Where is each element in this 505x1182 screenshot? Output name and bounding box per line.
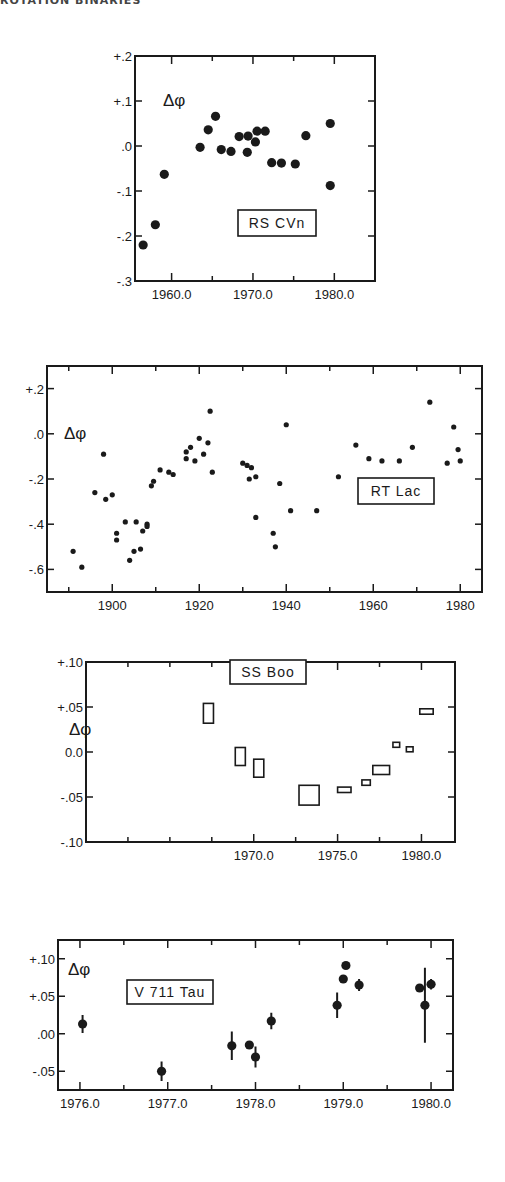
data-point — [253, 474, 258, 479]
y-tick-label: -.05 — [61, 790, 83, 805]
data-point — [139, 240, 148, 249]
data-point — [427, 400, 432, 405]
data-point — [247, 476, 252, 481]
y-tick-label: +.10 — [29, 952, 55, 967]
data-box — [254, 759, 264, 777]
legend-label: V 711 Tau — [135, 984, 206, 1000]
y-tick-label: +.2 — [114, 49, 132, 64]
x-tick-label: 1975.0 — [318, 848, 358, 863]
data-point — [301, 131, 310, 140]
data-point — [79, 565, 84, 570]
legend-label: SS Boo — [241, 664, 294, 680]
data-point — [149, 483, 154, 488]
data-point — [140, 528, 145, 533]
data-point — [211, 112, 220, 121]
data-box — [299, 785, 319, 805]
data-point — [158, 467, 163, 472]
data-point — [114, 531, 119, 536]
data-point — [291, 159, 300, 168]
data-point — [204, 125, 213, 134]
data-point — [415, 983, 424, 992]
data-point — [197, 436, 202, 441]
data-point — [243, 148, 252, 157]
plot-frame — [135, 56, 375, 281]
data-point — [171, 472, 176, 477]
data-point — [101, 452, 106, 457]
plot-frame — [86, 662, 455, 842]
data-point — [273, 544, 278, 549]
data-point — [455, 447, 460, 452]
y-tick-label: -.2 — [29, 472, 44, 487]
data-point — [71, 549, 76, 554]
x-tick-label: 1960 — [359, 598, 388, 613]
data-point — [277, 159, 286, 168]
rs-cvn-chart: 1960.01970.01980.0+.2+.1.0-.1-.2-.3ΔφRS … — [0, 0, 505, 330]
y-tick-label: .0 — [121, 139, 132, 154]
y-tick-label: +.10 — [57, 655, 83, 670]
data-point — [451, 424, 456, 429]
y-tick-label: .00 — [37, 1027, 55, 1042]
data-point — [210, 470, 215, 475]
data-point — [123, 519, 128, 524]
legend-label: RT Lac — [371, 483, 422, 499]
data-point — [134, 519, 139, 524]
data-point — [78, 1019, 87, 1028]
data-box — [393, 742, 400, 747]
y-tick-label: +.05 — [29, 989, 55, 1004]
data-point — [160, 170, 169, 179]
x-tick-label: 1940 — [272, 598, 301, 613]
data-point — [184, 456, 189, 461]
ss-boo-chart: 1970.01975.01980.0+.10+.050.0-.05-.10ΔφS… — [0, 620, 505, 910]
y-tick-label: +.2 — [26, 382, 44, 397]
data-point — [251, 137, 260, 146]
data-point — [103, 497, 108, 502]
data-point — [235, 132, 244, 141]
data-point — [397, 458, 402, 463]
y-tick-label: +.05 — [57, 700, 83, 715]
data-point — [333, 1001, 342, 1010]
data-point — [267, 1016, 276, 1025]
data-point — [110, 492, 115, 497]
y-axis-label: Δφ — [69, 720, 91, 739]
data-point — [157, 1067, 166, 1076]
data-point — [205, 440, 210, 445]
data-point — [249, 465, 254, 470]
data-point — [379, 458, 384, 463]
data-point — [261, 127, 270, 136]
y-tick-label: -.4 — [29, 517, 44, 532]
data-box — [338, 787, 351, 792]
data-point — [426, 980, 435, 989]
y-tick-label: .0 — [33, 427, 44, 442]
data-point — [326, 119, 335, 128]
x-tick-label: 1979.0 — [323, 1096, 363, 1111]
x-tick-label: 1970.0 — [233, 287, 273, 302]
y-axis-label: Δφ — [68, 960, 90, 979]
data-point — [201, 452, 206, 457]
data-point — [252, 127, 261, 136]
x-tick-label: 1920 — [185, 598, 214, 613]
rt-lac-chart: 19001920194019601980+.2.0-.2-.4-.6ΔφRT L… — [0, 330, 505, 620]
data-point — [253, 515, 258, 520]
data-point — [184, 449, 189, 454]
y-tick-label: -.10 — [61, 835, 83, 850]
x-tick-label: 1978.0 — [236, 1096, 276, 1111]
data-point — [288, 508, 293, 513]
x-tick-label: 1980.0 — [402, 848, 442, 863]
data-point — [353, 443, 358, 448]
data-point — [138, 546, 143, 551]
x-tick-label: 1980.0 — [411, 1096, 451, 1111]
data-point — [366, 456, 371, 461]
data-point — [271, 531, 276, 536]
data-point — [354, 980, 363, 989]
y-tick-label: -.6 — [29, 562, 44, 577]
y-tick-label: -.05 — [33, 1064, 55, 1079]
x-tick-label: 1960.0 — [152, 287, 192, 302]
x-tick-label: 1976.0 — [60, 1096, 100, 1111]
data-box — [420, 709, 433, 714]
data-point — [92, 490, 97, 495]
y-tick-label: -.3 — [117, 274, 132, 289]
data-point — [151, 220, 160, 229]
data-point — [284, 422, 289, 427]
legend-label: RS CVn — [249, 215, 306, 231]
data-box — [235, 748, 245, 766]
